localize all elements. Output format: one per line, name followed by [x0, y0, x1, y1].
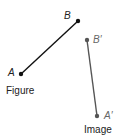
- point-a-prime: [95, 114, 99, 118]
- caption-figure: Figure: [6, 85, 34, 96]
- label-b-prime: B′: [93, 34, 102, 45]
- point-a: [19, 72, 23, 76]
- image-segment-ab-prime: [87, 40, 97, 116]
- figure-segment-ab: [21, 21, 78, 74]
- diagram: A B Figure B′ A′ Image: [0, 0, 128, 136]
- point-b: [76, 19, 80, 23]
- caption-image: Image: [84, 124, 112, 135]
- label-a: A: [8, 67, 15, 78]
- point-b-prime: [85, 38, 89, 42]
- label-b: B: [64, 10, 71, 21]
- label-a-prime: A′: [104, 110, 113, 121]
